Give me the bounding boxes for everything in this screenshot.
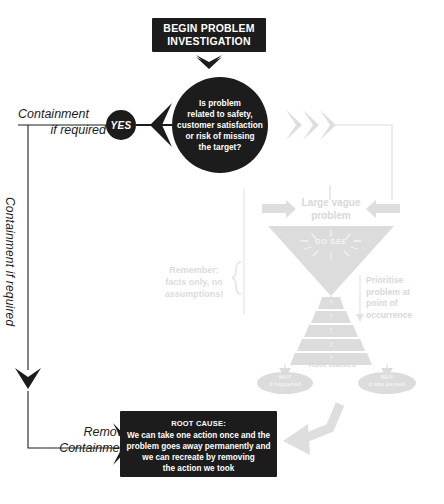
why-left-line-2: it happened (269, 381, 300, 387)
remember-note: Remember: facts only, no assumptions! (154, 264, 234, 300)
large-vague-problem-label: Large vague problem (288, 196, 374, 222)
begin-investigation-box: BEGIN PROBLEM INVESTIGATION (152, 18, 266, 52)
begin-line-2: INVESTIGATION (167, 35, 251, 47)
prioritise-arrowhead-icon (356, 314, 364, 322)
why-left-line-1: WHY (278, 374, 291, 380)
why-left-label: WHY it happened (257, 374, 313, 388)
prioritise-line-3: point of (366, 298, 398, 308)
root-cause-line-1: We can take one action once and the (127, 431, 270, 440)
prioritise-line-4: occurrence (366, 310, 412, 320)
root-cause-body: We can take one action once and the prob… (126, 430, 271, 474)
large-vague-line-1: Large vague (302, 197, 361, 208)
remove-line-1: Remove (38, 424, 130, 440)
flowchart-canvas: BEGIN PROBLEM INVESTIGATION Is problem r… (0, 0, 444, 504)
why-right-line-2: it was passed (369, 381, 405, 387)
decision-line-5: the target? (199, 142, 242, 152)
decision-line-1: Is problem (199, 98, 241, 108)
chevron-down-icon-2 (196, 55, 222, 67)
yes-badge-label: YES (111, 120, 132, 131)
pyramid-q-1: ? (316, 299, 346, 306)
prioritise-label: Prioritise problem at point of occurrenc… (366, 275, 440, 321)
containment-top-line-1: Containment (18, 107, 89, 121)
containment-top-line-2: if required (18, 122, 110, 138)
decision-circle: Is problem related to safety, customer s… (172, 77, 268, 173)
why-right-label: WHY it was passed (357, 374, 417, 388)
root-cause-title: ROOT CAUSE: (126, 418, 271, 429)
cluster-entry-connector (336, 125, 392, 200)
cluster-to-rootcause-arrowhead-icon (283, 424, 310, 455)
decision-line-2: related to safety, (187, 109, 252, 119)
pyramid-q-4: ? (316, 341, 346, 348)
containment-top-label: Containment if required (18, 106, 110, 138)
pyramid-q-5: ? (316, 355, 346, 362)
go-see-label: GO SEE (288, 237, 374, 246)
decision-line-4: or risk of missing (185, 131, 254, 141)
why-right-line-1: WHY (380, 374, 393, 380)
remove-containment-label: Remove Containment (38, 424, 130, 456)
root-cause-box: ROOT CAUSE: We can take one action once … (120, 411, 277, 477)
remember-line-1: Remember: (169, 265, 219, 275)
large-vague-line-2: problem (311, 210, 350, 221)
pyramid-q-3: ? (316, 327, 346, 334)
decision-line-3: customer satisfaction (177, 120, 263, 130)
prioritise-line-2: problem at (366, 287, 410, 297)
pyramid-q-2: ? (316, 313, 346, 320)
remember-line-3: assumptions! (165, 289, 224, 299)
begin-line-1: BEGIN PROBLEM (163, 22, 254, 34)
containment-vertical-label: Containment if required (3, 197, 17, 347)
root-cause-line-2: problem goes away permanently and (127, 442, 271, 451)
remember-line-2: facts only, no (165, 277, 222, 287)
yes-badge: YES (106, 110, 136, 140)
root-cause-line-4: the action we took (163, 464, 234, 473)
root-cause-line-3: we can recreate by removing (142, 453, 254, 462)
prioritise-line-1: Prioritise (366, 275, 403, 285)
containment-down-arrowhead-icon (15, 368, 41, 389)
fishbone-chevrons-icon (286, 110, 336, 140)
remove-line-2: Containment (38, 440, 130, 456)
